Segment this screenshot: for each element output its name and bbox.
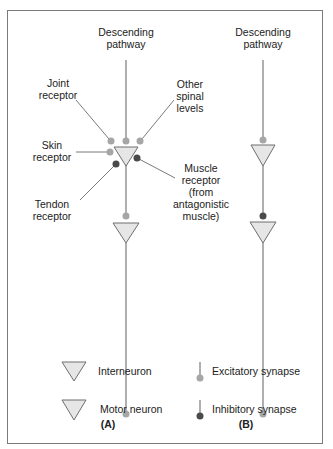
interneuron-b: [251, 145, 275, 166]
inhibitory-synapse-b: [260, 213, 267, 220]
motor-neuron-a: [113, 223, 139, 243]
motor-neuron-legend-label: Motor neuron: [100, 403, 162, 415]
descending-excitatory-synapse-b: [260, 137, 267, 144]
neural-circuit-diagram: [0, 0, 333, 449]
spinal-excitatory-synapse: [137, 138, 144, 145]
motor-neuron-b: [250, 222, 276, 243]
other-spinal-levels-label: Other spinal levels: [166, 78, 214, 114]
joint-excitatory-synapse: [108, 138, 115, 145]
panel-b-label: (B): [234, 418, 258, 430]
inhibitory-synapse-legend-label: Inhibitory synapse: [212, 403, 297, 415]
panel-a-circuit: [76, 60, 175, 418]
tendon-inhibitory-synapse: [113, 161, 120, 168]
tendon-receptor-label: Tendon receptor: [24, 198, 80, 222]
motor-neuron-legend-icon: [62, 400, 86, 420]
interneuron-legend-icon: [62, 362, 86, 381]
skin-excitatory-synapse: [107, 149, 114, 156]
descending-excitatory-synapse-a: [123, 138, 130, 145]
skin-receptor-label: Skin receptor: [24, 139, 80, 163]
panel-b-circuit: [250, 60, 276, 418]
muscle-receptor-label: Muscle receptor (from antagonistic muscl…: [166, 162, 236, 222]
interneuron-to-motor-excitatory-synapse: [123, 213, 130, 220]
muscle-inhibitory-synapse: [134, 155, 141, 162]
descending-pathway-label-a: Descending pathway: [96, 26, 156, 50]
inhibitory-synapse-legend-icon: [197, 413, 204, 420]
descending-pathway-label-b: Descending pathway: [233, 26, 293, 50]
joint-receptor-label: Joint receptor: [30, 77, 86, 101]
panel-a-label: (A): [96, 418, 120, 430]
interneuron-legend-label: Interneuron: [98, 365, 152, 377]
excitatory-synapse-legend-icon: [197, 375, 204, 382]
excitatory-synapse-legend-label: Excitatory synapse: [212, 365, 300, 377]
